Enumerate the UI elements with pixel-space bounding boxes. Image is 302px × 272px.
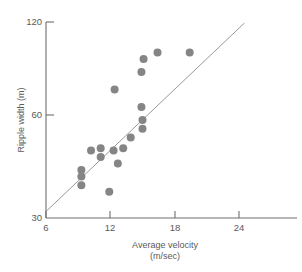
x-tick-label-18: 18 [170,222,181,233]
data-point [111,86,119,94]
data-point [140,55,148,63]
data-point [139,125,147,133]
data-point [97,153,105,161]
x-tick-label-12: 12 [105,222,116,233]
caption-sliver [0,266,302,272]
y-tick-label-30: 30 [31,212,42,223]
data-point [137,103,145,111]
x-axis-unit: (m/sec) [150,251,180,261]
data-point [87,146,95,154]
y-tick-label-120: 120 [26,16,42,27]
data-point [119,144,127,152]
data-point [77,181,85,189]
data-point [114,160,122,168]
data-point [137,68,145,76]
x-tick-label-24: 24 [234,222,245,233]
data-point [110,146,118,154]
data-point [139,116,147,124]
data-point [97,144,105,152]
y-axis-title: Ripple width (m) [16,87,26,152]
data-point [105,188,113,196]
data-point [77,173,85,181]
data-point [186,48,194,56]
y-tick-label-60: 60 [31,109,42,120]
x-tick-label-6: 6 [43,222,48,233]
data-points-group [77,48,193,195]
data-point [127,133,135,141]
scatter-plot-svg: 120 60 30 6 12 18 24 Average velocity (m… [0,0,302,272]
chart-figure: 120 60 30 6 12 18 24 Average velocity (m… [0,0,302,272]
x-axis-title: Average velocity [132,240,198,250]
data-point [154,48,162,56]
